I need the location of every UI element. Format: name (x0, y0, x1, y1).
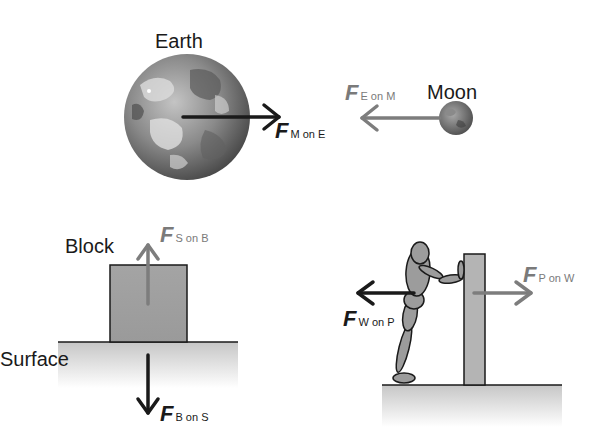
force-subscript: W on P (358, 316, 394, 328)
earth-label: Earth (155, 30, 203, 53)
wall (464, 254, 485, 385)
force-symbol: F (275, 118, 288, 143)
force-arrow-earth-on-moon (362, 106, 440, 130)
force-symbol: F (160, 222, 173, 247)
moon-label: Moon (427, 81, 477, 104)
force-symbol: F (343, 306, 356, 331)
moon-globe (439, 101, 473, 135)
force-symbol: F (523, 262, 536, 287)
force-label-block-on-surface: FB on S (160, 401, 208, 427)
person-figure (393, 247, 464, 383)
force-subscript: M on E (290, 128, 325, 140)
force-subscript: P on W (538, 272, 574, 284)
force-subscript: B on S (175, 411, 208, 423)
force-label-moon-on-earth: FM on E (275, 118, 325, 144)
force-label-earth-on-moon: FE on M (345, 80, 395, 106)
person-head (411, 242, 429, 264)
diagram-canvas (0, 0, 603, 447)
force-label-surface-on-block: FS on B (160, 222, 208, 248)
force-subscript: S on B (175, 232, 208, 244)
floor-ground (382, 385, 562, 427)
force-symbol: F (160, 401, 173, 426)
force-subscript: E on M (360, 90, 395, 102)
force-symbol: F (345, 80, 358, 105)
force-label-wall-on-person: FW on P (343, 306, 395, 332)
block-label: Block (65, 235, 114, 258)
force-label-person-on-wall: FP on W (523, 262, 574, 288)
surface-label: Surface (0, 348, 69, 371)
